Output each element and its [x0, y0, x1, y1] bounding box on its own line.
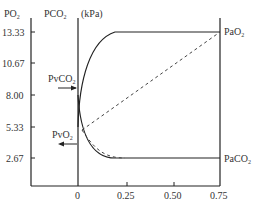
pco2-label: PCO2	[44, 8, 66, 20]
po2-curve	[78, 32, 220, 127]
x-tick-0: 0	[75, 190, 80, 201]
pco2-dashed	[82, 130, 125, 158]
y-tick-5.33: 5.33	[6, 122, 24, 133]
po2-label: PO2	[4, 8, 20, 20]
y-tick-13.33: 13.33	[2, 27, 25, 38]
paco2-label: PaCO2	[224, 153, 251, 165]
x-tick-0.25: 0.25	[117, 190, 135, 201]
chart: PO2 PCO2 (kPa) 13.33 10.67 8.00 5.33 2.6…	[0, 0, 254, 205]
y-tick-10.67: 10.67	[2, 58, 25, 69]
pao2-label: PaO2	[224, 26, 244, 38]
y-tick-2.67: 2.67	[6, 153, 24, 164]
unit-label: (kPa)	[81, 8, 103, 20]
pco2-curve	[78, 95, 220, 158]
x-tick-0.75: 0.75	[210, 190, 228, 201]
pvo2-label: PvO2	[52, 129, 73, 141]
y-tick-8.00: 8.00	[6, 90, 24, 101]
x-tick-0.50: 0.50	[164, 190, 182, 201]
po2-dashed	[82, 32, 220, 130]
pvco2-label: PvCO2	[48, 73, 75, 85]
